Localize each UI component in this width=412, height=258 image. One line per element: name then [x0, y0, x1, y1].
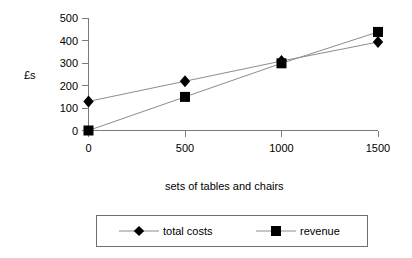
x-tick-label-0: 0: [85, 142, 91, 154]
legend-entry-total-costs: total costs: [119, 216, 213, 246]
series-markers-revenue: [84, 27, 384, 136]
y-tick-label-400: 400: [60, 35, 78, 47]
x-tick-label-500: 500: [176, 142, 194, 154]
data-point: [277, 58, 287, 68]
x-axis-title: sets of tables and chairs: [165, 180, 284, 192]
series-markers-total-costs: [83, 36, 383, 107]
y-tick-label-100: 100: [60, 102, 78, 114]
data-point: [180, 92, 190, 102]
legend-label-total-costs: total costs: [163, 225, 213, 237]
data-point: [84, 126, 94, 136]
data-point: [373, 36, 383, 48]
y-axis-title: £s: [24, 69, 36, 81]
data-point: [373, 27, 383, 37]
diamond-marker-icon: [119, 224, 159, 238]
data-point: [83, 95, 93, 107]
series-line-total-costs: [89, 42, 379, 101]
y-tick-label-200: 200: [60, 80, 78, 92]
chart-legend: total costs revenue: [96, 215, 368, 247]
legend-entry-revenue: revenue: [256, 216, 340, 246]
x-tick-label-1500: 1500: [366, 142, 390, 154]
legend-label-revenue: revenue: [300, 225, 340, 237]
x-tick-label-1000: 1000: [269, 142, 293, 154]
y-tick-label-300: 300: [60, 57, 78, 69]
chart-container: 500 400 300 200 100 0 0 500 1000 1500 £s…: [0, 0, 412, 258]
square-marker-icon: [256, 224, 296, 238]
series-line-revenue: [89, 32, 379, 131]
y-tick-label-500: 500: [60, 12, 78, 24]
data-point: [180, 75, 190, 87]
y-tick-label-0: 0: [72, 125, 78, 137]
